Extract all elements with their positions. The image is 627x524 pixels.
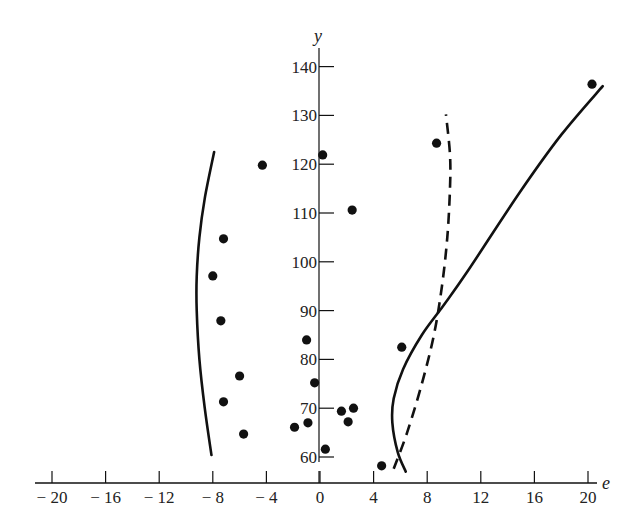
scatter-chart: − 20− 16− 12− 8− 4048121620 607080901001…	[0, 0, 627, 524]
fitted-curves	[196, 86, 602, 472]
data-point	[310, 378, 319, 387]
data-point	[587, 80, 596, 89]
x-axis: − 20− 16− 12− 8− 4048121620	[35, 471, 597, 507]
y-tick-label: 80	[300, 350, 317, 369]
data-point	[219, 234, 228, 243]
x-tick-label: − 12	[144, 488, 175, 507]
data-point	[239, 429, 248, 438]
data-point	[397, 343, 406, 352]
x-tick-label: − 16	[90, 488, 121, 507]
data-point	[216, 316, 225, 325]
x-tick-label: 4	[369, 488, 378, 507]
x-tick-label: 20	[580, 488, 597, 507]
data-point	[219, 397, 228, 406]
x-axis-title: e	[602, 473, 610, 493]
y-tick-label: 70	[300, 399, 317, 418]
x-tick-label: − 20	[37, 488, 68, 507]
data-point	[302, 335, 311, 344]
data-point	[349, 404, 358, 413]
y-tick-label: 60	[300, 448, 317, 467]
y-tick-label: 100	[292, 253, 318, 272]
x-tick-label: − 8	[202, 488, 224, 507]
data-points	[208, 80, 596, 471]
data-point	[337, 407, 346, 416]
data-point	[348, 205, 357, 214]
data-point	[321, 445, 330, 454]
data-point	[208, 271, 217, 280]
x-tick-label: 0	[316, 488, 325, 507]
right-dashed-curve	[394, 114, 451, 468]
data-point	[258, 161, 267, 170]
y-tick-label: 120	[292, 155, 318, 174]
data-point	[432, 139, 441, 148]
y-tick-label: 130	[292, 106, 318, 125]
data-point	[290, 423, 299, 432]
data-point	[235, 371, 244, 380]
y-tick-label: 90	[300, 302, 317, 321]
data-point	[344, 417, 353, 426]
left-solid-curve	[196, 152, 214, 455]
y-tick-label: 140	[292, 58, 318, 77]
x-tick-label: 16	[526, 488, 543, 507]
y-tick-label: 110	[292, 204, 317, 223]
x-tick-label: 12	[472, 488, 489, 507]
y-axis-title: y	[312, 26, 322, 46]
data-point	[377, 461, 386, 470]
y-axis: 60708090100110120130140	[292, 48, 335, 483]
x-tick-label: − 4	[255, 488, 278, 507]
data-point	[318, 150, 327, 159]
x-tick-label: 8	[423, 488, 432, 507]
data-point	[303, 418, 312, 427]
right-solid-curve	[392, 86, 603, 472]
